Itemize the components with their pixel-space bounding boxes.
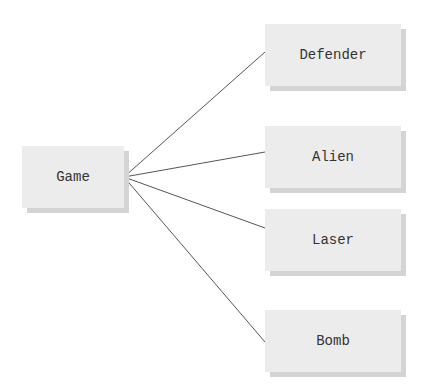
node-laser: Laser xyxy=(265,209,401,271)
connector-alien xyxy=(124,152,265,177)
node-game: Game xyxy=(22,146,124,208)
node-label: Laser xyxy=(312,232,354,248)
node-defender: Defender xyxy=(265,24,401,86)
node-label: Defender xyxy=(299,47,366,63)
node-label: Bomb xyxy=(316,333,350,349)
node-label: Alien xyxy=(312,149,354,165)
connector-defender xyxy=(124,52,265,177)
node-bomb: Bomb xyxy=(265,310,401,372)
node-alien: Alien xyxy=(265,126,401,188)
node-label: Game xyxy=(56,169,90,185)
connector-bomb xyxy=(124,177,265,342)
